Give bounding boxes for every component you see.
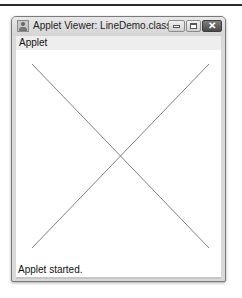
- menu-applet[interactable]: Applet: [18, 37, 48, 48]
- minimize-button[interactable]: [168, 20, 185, 32]
- applet-canvas: [16, 50, 221, 264]
- status-text: Applet started.: [18, 264, 82, 275]
- line-drawing: [16, 50, 221, 264]
- maximize-button[interactable]: [186, 20, 201, 32]
- applet-viewer-window: Applet Viewer: LineDemo.class ✕ Applet A…: [11, 16, 226, 282]
- close-button[interactable]: ✕: [202, 20, 222, 32]
- top-divider: [0, 4, 242, 6]
- menu-bar: Applet: [16, 36, 221, 50]
- window-bottom-edge: [16, 277, 221, 279]
- minimize-icon: [173, 25, 180, 28]
- title-bar[interactable]: Applet Viewer: LineDemo.class ✕: [12, 17, 225, 36]
- close-icon: ✕: [203, 19, 221, 33]
- maximize-icon: [190, 23, 197, 29]
- status-bar: Applet started.: [16, 264, 221, 277]
- java-applet-icon[interactable]: [17, 20, 29, 32]
- window-title: Applet Viewer: LineDemo.class: [33, 20, 171, 31]
